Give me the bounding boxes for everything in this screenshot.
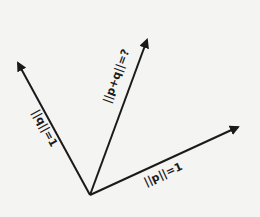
vector-q: ||q||=1 — [18, 63, 90, 195]
vector-q-label: ||q||=1 — [29, 107, 60, 149]
vector-p-label: ||p||=1 — [142, 160, 185, 189]
vector-diagram: ||p||=1 ||q||=1 ||p+q||=? — [0, 0, 260, 217]
vector-q-arrow — [18, 63, 90, 195]
diagram-svg: ||p||=1 ||q||=1 ||p+q||=? — [0, 0, 260, 217]
vector-p-plus-q-label: ||p+q||=? — [101, 47, 133, 105]
